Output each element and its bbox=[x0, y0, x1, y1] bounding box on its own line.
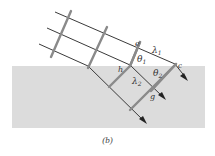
wavefront bbox=[51, 11, 71, 57]
label-g: g bbox=[150, 92, 155, 101]
ray-bottom bbox=[39, 44, 88, 66]
wavefronts-air bbox=[51, 11, 140, 68]
medium-region bbox=[12, 66, 205, 128]
figure-caption: (b) bbox=[0, 135, 215, 145]
refraction-diagram: e λ1 θ1 h θ2 c λ2 g (b) bbox=[0, 0, 215, 156]
diagram-canvas: e λ1 θ1 h θ2 c λ2 g bbox=[0, 0, 215, 156]
ray-middle bbox=[47, 28, 130, 65]
label-lambda1: λ1 bbox=[151, 45, 162, 56]
label-c: c bbox=[178, 62, 182, 70]
label-e: e bbox=[135, 39, 140, 48]
label-theta1: θ1 bbox=[137, 54, 146, 65]
ray-top bbox=[55, 12, 175, 64]
label-h: h bbox=[118, 65, 123, 74]
